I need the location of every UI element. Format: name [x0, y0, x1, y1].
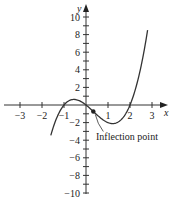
- x-tick-label: −3: [15, 110, 26, 121]
- x-tick-label: 3: [150, 110, 155, 121]
- y-axis-arrow-icon: [83, 4, 89, 12]
- y-tick-label: 6: [75, 47, 80, 58]
- y-tick-label: −2: [69, 117, 80, 128]
- annotation-label: Inflection point: [96, 131, 158, 142]
- y-tick-label: 2: [75, 82, 80, 93]
- y-tick-label: −6: [69, 152, 80, 163]
- y-tick-label: −8: [69, 170, 80, 181]
- x-axis-label: x: [163, 107, 169, 118]
- y-tick-label: −4: [69, 135, 80, 146]
- inflection-point-marker: [91, 109, 95, 113]
- x-tick-label: 1: [106, 110, 111, 121]
- x-tick-label: −2: [37, 110, 48, 121]
- plot-area: xy−3−2−1123−10−8−6−4−2246810 Inflection …: [0, 0, 172, 198]
- y-tick-label: 10: [70, 12, 80, 23]
- tick-labels: xy−3−2−1123−10−8−6−4−2246810: [15, 3, 169, 198]
- y-tick-label: 4: [75, 64, 80, 75]
- axes: [4, 4, 168, 194]
- y-tick-label: −10: [64, 188, 80, 199]
- x-tick-label: 2: [128, 110, 133, 121]
- cubic-function-chart: xy−3−2−1123−10−8−6−4−2246810 Inflection …: [0, 0, 172, 198]
- y-tick-label: 8: [75, 29, 80, 40]
